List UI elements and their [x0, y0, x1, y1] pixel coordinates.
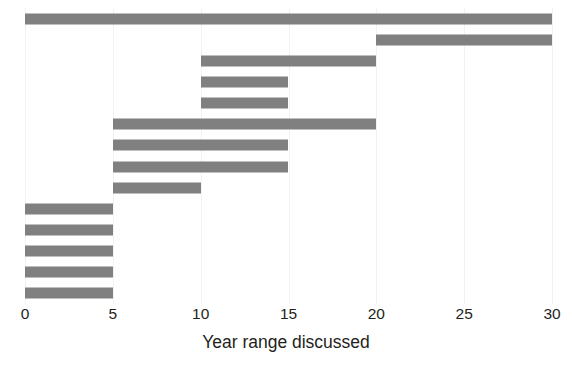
bar-row — [25, 156, 552, 177]
x-tick-label-15: 15 — [280, 304, 297, 324]
x-tick-label-10: 10 — [192, 304, 209, 324]
range-bar[interactable] — [201, 55, 377, 66]
chart-figure: 051015202530 Year range discussed — [0, 0, 572, 365]
range-bar[interactable] — [376, 34, 552, 45]
bar-row — [25, 241, 552, 262]
range-bar[interactable] — [25, 203, 113, 214]
range-bar[interactable] — [25, 246, 113, 257]
plot-area — [25, 8, 552, 304]
bar-row — [25, 283, 552, 304]
x-tick-label-20: 20 — [368, 304, 385, 324]
range-bar[interactable] — [25, 224, 113, 235]
x-tick-label-0: 0 — [21, 304, 30, 324]
x-axis: 051015202530 — [0, 304, 572, 330]
bar-row — [25, 93, 552, 114]
bar-row — [25, 50, 552, 71]
bar-row — [25, 135, 552, 156]
x-tick-label-5: 5 — [109, 304, 118, 324]
bar-row — [25, 198, 552, 219]
gridline-30 — [552, 8, 553, 304]
bar-row — [25, 177, 552, 198]
range-bar[interactable] — [25, 288, 113, 299]
x-tick-label-25: 25 — [456, 304, 473, 324]
x-tick-label-30: 30 — [543, 304, 560, 324]
bar-row — [25, 219, 552, 240]
bar-row — [25, 8, 552, 29]
range-bar[interactable] — [201, 76, 289, 87]
bar-row — [25, 29, 552, 50]
bar-row — [25, 114, 552, 135]
bar-row — [25, 262, 552, 283]
range-bar[interactable] — [25, 267, 113, 278]
bar-row — [25, 71, 552, 92]
range-bar[interactable] — [113, 161, 289, 172]
range-bar[interactable] — [25, 13, 552, 24]
x-axis-title: Year range discussed — [0, 331, 572, 353]
range-bar[interactable] — [113, 140, 289, 151]
range-bar[interactable] — [113, 182, 201, 193]
range-bar[interactable] — [201, 98, 289, 109]
range-bar[interactable] — [113, 119, 377, 130]
